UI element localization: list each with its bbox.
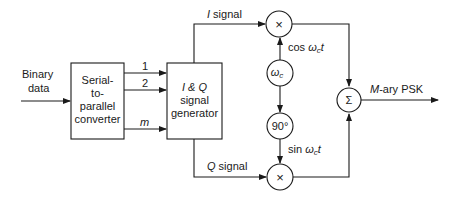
binary-label-line2: data bbox=[28, 82, 50, 94]
i-product-line bbox=[292, 24, 349, 86]
parallel-label-2: 2 bbox=[142, 77, 148, 89]
phase-shifter: 90° sin ωct bbox=[267, 113, 322, 163]
q-signal-path: Q signal bbox=[194, 139, 266, 177]
q-signal-label: Q signal bbox=[207, 160, 247, 172]
mpsk-block-diagram: Binary data Serial- to- parallel convert… bbox=[0, 0, 462, 202]
carrier-oscillator: ωc cos ωct bbox=[267, 38, 325, 112]
multiply-icon: × bbox=[276, 170, 284, 185]
s2p-line2: to- bbox=[91, 87, 104, 99]
iq-line3: generator bbox=[171, 107, 218, 119]
i-multiplier: × bbox=[266, 11, 292, 37]
iq-line1: I & Q bbox=[182, 81, 208, 93]
cos-label: cos ωct bbox=[288, 41, 325, 55]
i-signal-line bbox=[194, 24, 265, 63]
s2p-line1: Serial- bbox=[82, 74, 114, 86]
serial-to-parallel-converter: Serial- to- parallel converter bbox=[71, 63, 124, 139]
output: M-ary PSK bbox=[361, 83, 438, 100]
binary-data-input: Binary data bbox=[21, 68, 70, 101]
parallel-label-1: 1 bbox=[142, 60, 148, 72]
s2p-line3: parallel bbox=[80, 100, 115, 112]
s2p-line4: converter bbox=[75, 113, 121, 125]
i-signal-label: I signal bbox=[207, 8, 242, 20]
q-multiplier: × bbox=[267, 164, 293, 190]
output-label: M-ary PSK bbox=[370, 83, 424, 95]
binary-label-line1: Binary bbox=[22, 68, 54, 80]
parallel-label-m: m bbox=[140, 116, 149, 128]
i-signal-path: I signal bbox=[194, 8, 265, 63]
iq-signal-generator: I & Q signal generator bbox=[167, 63, 222, 139]
sigma-icon: Σ bbox=[346, 94, 353, 106]
summer: Σ bbox=[337, 88, 361, 112]
parallel-lines: 1 2 m bbox=[124, 60, 166, 129]
phase-shift-label: 90° bbox=[272, 120, 289, 132]
iq-line2: signal bbox=[180, 94, 209, 106]
multiply-icon: × bbox=[275, 17, 283, 32]
sin-label: sin ωct bbox=[288, 143, 322, 157]
